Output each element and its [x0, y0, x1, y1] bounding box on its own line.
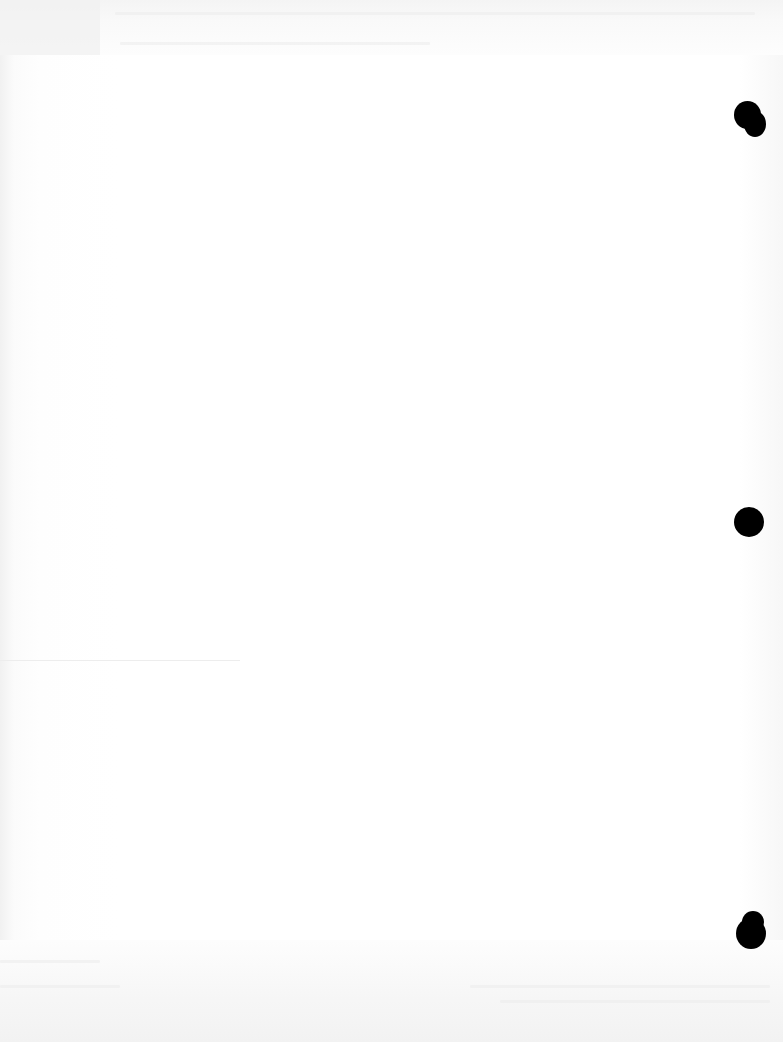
- bottom-shadow-band: [0, 940, 783, 1042]
- bleed-through-line: [115, 12, 755, 15]
- faint-rule: [0, 660, 240, 661]
- bleed-through-line: [470, 985, 770, 988]
- bleed-through-line: [0, 985, 120, 988]
- bleed-through-line: [120, 42, 430, 45]
- top-left-shadow: [0, 0, 100, 55]
- punch-hole-icon: [736, 918, 766, 949]
- bleed-through-line: [500, 1000, 770, 1003]
- top-shadow-band: [0, 0, 783, 55]
- punch-hole-icon: [744, 111, 766, 137]
- bleed-through-line: [0, 960, 100, 963]
- scanned-page: [0, 0, 783, 1042]
- punch-hole-icon: [734, 507, 764, 537]
